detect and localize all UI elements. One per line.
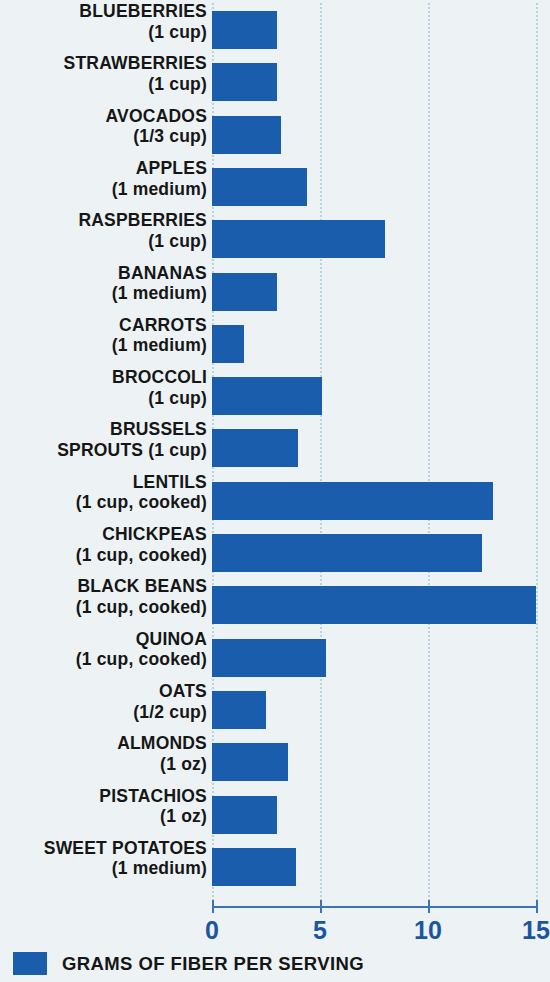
category-label: ALMONDS(1 oz) — [7, 733, 207, 774]
bar — [212, 11, 277, 49]
bar — [212, 848, 296, 886]
chart-row: BROCCOLI(1 cup) — [0, 367, 550, 419]
category-label: BANANAS(1 medium) — [7, 263, 207, 304]
bar — [212, 116, 281, 154]
category-serving: (1 cup, cooked) — [7, 545, 207, 566]
category-label: SWEET POTATOES(1 medium) — [7, 838, 207, 879]
axis-tick-label: 5 — [313, 916, 327, 945]
bar-rows: BLUEBERRIES(1 cup)STRAWBERRIES(1 cup)AVO… — [0, 0, 550, 907]
chart-row: ALMONDS(1 oz) — [0, 733, 550, 785]
category-serving: (1 cup) — [7, 231, 207, 252]
plot-area: BLUEBERRIES(1 cup)STRAWBERRIES(1 cup)AVO… — [0, 0, 550, 907]
bar — [212, 534, 482, 572]
bar — [212, 691, 266, 729]
category-label: APPLES(1 medium) — [7, 158, 207, 199]
chart-row: BLUEBERRIES(1 cup) — [0, 1, 550, 53]
category-serving: (1 medium) — [7, 858, 207, 879]
category-name: BLUEBERRIES — [7, 1, 207, 22]
category-name: OATS — [7, 681, 207, 702]
bar — [212, 273, 277, 311]
category-label: CHICKPEAS(1 cup, cooked) — [7, 524, 207, 565]
category-serving: (1/2 cup) — [7, 702, 207, 723]
category-serving: (1 cup, cooked) — [7, 649, 207, 670]
category-serving: (1 oz) — [7, 806, 207, 827]
category-label: OATS(1/2 cup) — [7, 681, 207, 722]
bar — [212, 429, 298, 467]
chart-row: APPLES(1 medium) — [0, 158, 550, 210]
category-name: BANANAS — [7, 263, 207, 284]
chart-row: PISTACHIOS(1 oz) — [0, 786, 550, 838]
category-label: CARROTS(1 medium) — [7, 315, 207, 356]
axis-tick — [536, 900, 538, 913]
category-label: STRAWBERRIES(1 cup) — [7, 53, 207, 94]
category-name: QUINOA — [7, 629, 207, 650]
axis-tick — [428, 900, 430, 913]
category-name: STRAWBERRIES — [7, 53, 207, 74]
bar — [212, 63, 277, 101]
chart-row: CARROTS(1 medium) — [0, 315, 550, 367]
legend-swatch-icon — [13, 952, 47, 975]
category-label: PISTACHIOS(1 oz) — [7, 786, 207, 827]
category-serving: (1 medium) — [7, 179, 207, 200]
chart-row: BLACK BEANS(1 cup, cooked) — [0, 576, 550, 628]
category-label: RASPBERRIES(1 cup) — [7, 210, 207, 251]
bar — [212, 325, 244, 363]
legend-label: GRAMS OF FIBER PER SERVING — [62, 953, 364, 975]
chart-row: SWEET POTATOES(1 medium) — [0, 838, 550, 890]
chart-row: OATS(1/2 cup) — [0, 681, 550, 733]
chart-row: CHICKPEAS(1 cup, cooked) — [0, 524, 550, 576]
chart-row: BRUSSELSSPROUTS (1 cup) — [0, 419, 550, 471]
category-label: QUINOA(1 cup, cooked) — [7, 629, 207, 670]
bar — [212, 482, 493, 520]
category-label: AVOCADOS(1/3 cup) — [7, 106, 207, 147]
category-name: RASPBERRIES — [7, 210, 207, 231]
category-serving: (1 cup, cooked) — [7, 492, 207, 513]
category-serving: (1 cup) — [7, 74, 207, 95]
category-name: CARROTS — [7, 315, 207, 336]
category-serving: (1/3 cup) — [7, 126, 207, 147]
chart-row: BANANAS(1 medium) — [0, 263, 550, 315]
axis-tick — [320, 900, 322, 913]
category-name: BROCCOLI — [7, 367, 207, 388]
bar — [212, 220, 385, 258]
bar — [212, 796, 277, 834]
axis-tick-label: 15 — [522, 916, 550, 945]
category-serving: (1 cup, cooked) — [7, 597, 207, 618]
category-serving: (1 cup) — [7, 388, 207, 409]
category-name: SWEET POTATOES — [7, 838, 207, 859]
axis-tick — [212, 900, 214, 913]
bar — [212, 743, 288, 781]
category-serving: (1 oz) — [7, 754, 207, 775]
category-serving: (1 medium) — [7, 283, 207, 304]
chart-row: QUINOA(1 cup, cooked) — [0, 629, 550, 681]
chart-row: AVOCADOS(1/3 cup) — [0, 106, 550, 158]
chart-row: RASPBERRIES(1 cup) — [0, 210, 550, 262]
axis-tick-label: 0 — [205, 916, 219, 945]
category-label: BLACK BEANS(1 cup, cooked) — [7, 576, 207, 617]
category-name: APPLES — [7, 158, 207, 179]
axis-tick-label: 10 — [414, 916, 442, 945]
category-label: BRUSSELSSPROUTS (1 cup) — [7, 419, 207, 460]
x-axis-line — [212, 906, 536, 908]
category-serving: (1 cup) — [7, 22, 207, 43]
category-label: BROCCOLI(1 cup) — [7, 367, 207, 408]
bar — [212, 639, 326, 677]
category-name: CHICKPEAS — [7, 524, 207, 545]
category-name: PISTACHIOS — [7, 786, 207, 807]
bar — [212, 168, 307, 206]
category-name: BLACK BEANS — [7, 576, 207, 597]
bar — [212, 377, 322, 415]
fiber-bar-chart: BLUEBERRIES(1 cup)STRAWBERRIES(1 cup)AVO… — [0, 0, 550, 982]
category-name: BRUSSELS — [7, 419, 207, 440]
category-name: ALMONDS — [7, 733, 207, 754]
category-serving: SPROUTS (1 cup) — [7, 440, 207, 461]
chart-row: STRAWBERRIES(1 cup) — [0, 53, 550, 105]
category-label: LENTILS(1 cup, cooked) — [7, 472, 207, 513]
legend: GRAMS OF FIBER PER SERVING — [13, 952, 364, 975]
category-name: LENTILS — [7, 472, 207, 493]
category-name: AVOCADOS — [7, 106, 207, 127]
bar — [212, 586, 536, 624]
category-label: BLUEBERRIES(1 cup) — [7, 1, 207, 42]
chart-row: LENTILS(1 cup, cooked) — [0, 472, 550, 524]
category-serving: (1 medium) — [7, 335, 207, 356]
